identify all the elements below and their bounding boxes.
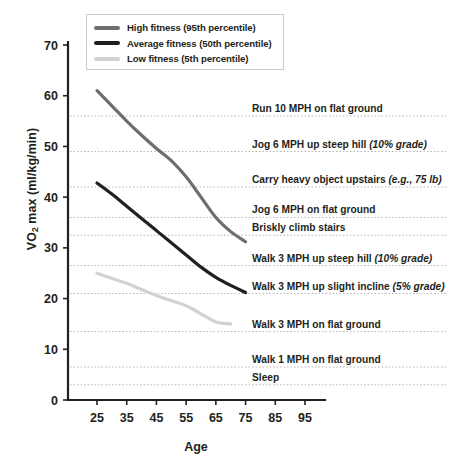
annotation-label: Walk 3 MPH up steep hill (10% grade) [252, 253, 433, 264]
y-tick-label: 40 [44, 191, 58, 205]
y-tick-label: 30 [44, 241, 58, 255]
annotation-label: Sleep [252, 372, 279, 383]
y-tick-label: 10 [44, 343, 58, 357]
axes-group [68, 42, 325, 400]
legend-item-label: Low fitness (5th percentile) [127, 53, 248, 64]
y-axis-title: VO2 max (ml/kg/min) [25, 94, 39, 284]
axis-lines [68, 42, 325, 400]
annotation-label: Jog 6 MPH on flat ground [252, 204, 375, 215]
legend-swatch-icon [94, 41, 120, 45]
annotation-group: Run 10 MPH on flat groundJog 6 MPH up st… [252, 103, 445, 383]
legend-item-label: Average fitness (50th percentile) [127, 38, 272, 49]
y-tick-label: 70 [44, 39, 58, 53]
annotation-label: Walk 3 MPH up slight incline (5% grade) [252, 281, 445, 292]
legend-item-label: High fitness (95th percentile) [127, 22, 256, 33]
y-axis-title-main: VO [25, 232, 39, 250]
y-tick-group: 010203040506070 [44, 39, 68, 408]
legend-swatch-icon [94, 26, 120, 30]
y-tick-label: 0 [51, 394, 58, 408]
x-tick-label: 25 [90, 411, 104, 425]
legend-item[interactable]: High fitness (95th percentile) [94, 20, 277, 36]
annotation-label: Walk 1 MPH on flat ground [252, 354, 381, 365]
series-line [97, 183, 246, 293]
x-tick-group: 2535455565758595 [90, 400, 312, 425]
gridline-group [70, 116, 447, 385]
x-tick-label: 65 [209, 411, 223, 425]
vo2-max-age-chart: 010203040506070 2535455565758595 Run 10 … [0, 0, 460, 471]
series-line [97, 91, 246, 242]
series-line [97, 273, 231, 324]
annotation-label: Carry heavy object upstairs (e.g., 75 lb… [252, 174, 442, 185]
x-tick-label: 35 [120, 411, 134, 425]
chart-legend: High fitness (95th percentile)Average fi… [86, 14, 284, 70]
x-tick-label: 95 [298, 411, 312, 425]
y-tick-label: 50 [44, 140, 58, 154]
y-tick-label: 60 [44, 89, 58, 103]
x-tick-label: 55 [179, 411, 193, 425]
x-tick-label: 45 [149, 411, 163, 425]
chart-canvas: 010203040506070 2535455565758595 Run 10 … [0, 0, 460, 471]
y-axis-title-sub: 2 [30, 227, 40, 232]
annotation-label: Run 10 MPH on flat ground [252, 103, 383, 114]
annotation-label: Jog 6 MPH up steep hill (10% grade) [252, 139, 428, 150]
y-axis-title-rest: max (ml/kg/min) [25, 128, 39, 227]
y-tick-label: 20 [44, 292, 58, 306]
annotation-label: Briskly climb stairs [252, 222, 346, 233]
legend-item[interactable]: Average fitness (50th percentile) [94, 36, 277, 52]
legend-swatch-icon [94, 57, 120, 61]
legend-item[interactable]: Low fitness (5th percentile) [94, 51, 277, 67]
x-tick-label: 75 [239, 411, 253, 425]
annotation-label: Walk 3 MPH on flat ground [252, 319, 381, 330]
x-axis-title: Age [184, 440, 208, 454]
x-tick-label: 85 [268, 411, 282, 425]
series-group [97, 91, 246, 324]
